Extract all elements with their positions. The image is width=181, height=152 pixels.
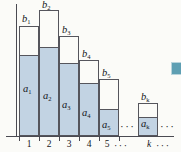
bars-trailing-ellipsis: ··· bbox=[160, 120, 176, 132]
bar-1 bbox=[19, 26, 39, 136]
y-axis bbox=[16, 4, 17, 136]
x-tick-5 bbox=[99, 136, 100, 141]
x-axis bbox=[6, 136, 174, 137]
bars-gap-ellipsis: ··· bbox=[120, 120, 136, 132]
x-ellipsis-after-5: ··· bbox=[114, 140, 129, 151]
x-tick-1 bbox=[19, 136, 20, 141]
bar-3 bbox=[59, 36, 79, 136]
x-label-5: 5 bbox=[101, 139, 113, 149]
x-label-4: 4 bbox=[83, 139, 95, 149]
x-label-2: 2 bbox=[43, 139, 55, 149]
x-tick-3 bbox=[59, 136, 60, 141]
bar-k-label-b: bk bbox=[141, 92, 150, 103]
x-tick-2 bbox=[39, 136, 40, 141]
bar-4-label-b: b4 bbox=[82, 49, 91, 60]
x-tick-4 bbox=[79, 136, 80, 141]
bar-5-label-b: b5 bbox=[102, 68, 111, 79]
bar-2 bbox=[39, 10, 59, 136]
bar-4-label-a: a4 bbox=[82, 108, 91, 119]
x-label-3: 3 bbox=[63, 139, 75, 149]
bar-2-label-b: b2 bbox=[42, 0, 51, 11]
x-label-k: k bbox=[143, 139, 155, 149]
bar-2-label-a: a2 bbox=[43, 91, 52, 102]
bar-4 bbox=[79, 60, 99, 136]
bar-3-label-b: b3 bbox=[62, 25, 71, 36]
x-ellipsis-after-k: ··· bbox=[156, 140, 171, 151]
bar-1-label-a: a1 bbox=[23, 84, 32, 95]
bar-k-label-a: ak bbox=[141, 119, 150, 130]
x-label-1: 1 bbox=[23, 139, 35, 149]
bar-1-label-b: b1 bbox=[22, 14, 31, 25]
bar-3-label-a: a3 bbox=[62, 100, 71, 111]
stacked-bar-figure: b1 a1 b2 a2 b3 a3 b4 a4 b5 a5 ··· bk ak bbox=[0, 0, 181, 152]
bar-5-label-a: a5 bbox=[102, 120, 111, 131]
color-chip bbox=[171, 62, 181, 75]
